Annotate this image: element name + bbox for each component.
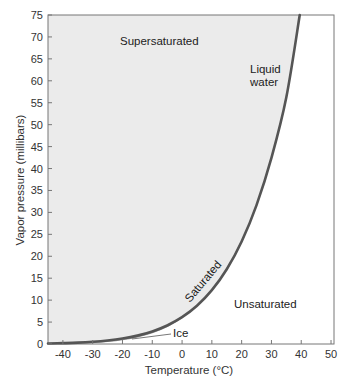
- svg-text:-10: -10: [144, 348, 160, 360]
- svg-text:20: 20: [236, 348, 248, 360]
- svg-text:40: 40: [295, 348, 307, 360]
- x-axis-ticks: -40-30-20-1001020304050: [55, 340, 337, 360]
- svg-text:0: 0: [37, 338, 43, 350]
- unsaturated-label: Unsaturated: [234, 298, 297, 310]
- svg-text:30: 30: [31, 206, 43, 218]
- liquid-water-label-line2: water: [249, 76, 278, 88]
- svg-text:35: 35: [31, 184, 43, 196]
- svg-text:70: 70: [31, 31, 43, 43]
- svg-text:0: 0: [179, 348, 185, 360]
- svg-text:50: 50: [31, 119, 43, 131]
- svg-text:75: 75: [31, 9, 43, 21]
- svg-text:20: 20: [31, 250, 43, 262]
- svg-text:-20: -20: [115, 348, 131, 360]
- svg-text:50: 50: [325, 348, 337, 360]
- x-axis-title: Temperature (°C): [145, 364, 233, 376]
- ice-label: Ice: [173, 327, 188, 339]
- svg-text:-40: -40: [55, 348, 71, 360]
- supersaturated-label: Supersaturated: [120, 35, 199, 47]
- svg-text:15: 15: [31, 272, 43, 284]
- svg-text:10: 10: [31, 294, 43, 306]
- y-axis-title: Vapor pressure (millibars): [14, 114, 26, 245]
- svg-text:40: 40: [31, 163, 43, 175]
- svg-text:65: 65: [31, 53, 43, 65]
- svg-text:55: 55: [31, 97, 43, 109]
- svg-text:10: 10: [206, 348, 218, 360]
- svg-text:5: 5: [37, 316, 43, 328]
- liquid-water-label-line1: Liquid: [250, 63, 281, 75]
- svg-text:-30: -30: [85, 348, 101, 360]
- svg-text:60: 60: [31, 75, 43, 87]
- clipped-caption: [0, 384, 352, 391]
- svg-text:25: 25: [31, 228, 43, 240]
- vapor-pressure-chart: -40-30-20-1001020304050 0510152025303540…: [0, 0, 352, 391]
- svg-text:30: 30: [265, 348, 277, 360]
- svg-text:45: 45: [31, 141, 43, 153]
